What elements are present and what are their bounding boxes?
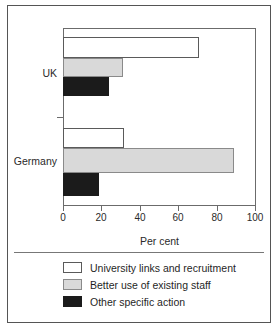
legend-label-university-links: University links and recruitment <box>90 262 236 274</box>
legend-swatch-black <box>63 296 82 307</box>
x-tick-20 <box>101 206 102 211</box>
x-tick-40 <box>140 206 141 211</box>
legend-item-other-specific-action: Other specific action <box>63 293 263 310</box>
x-tick-60 <box>178 206 179 211</box>
x-tick-label-20: 20 <box>86 212 116 224</box>
bar-germany-better-use-of-staff <box>63 148 234 173</box>
category-label-germany: Germany <box>5 155 57 167</box>
bar-uk-other-specific-action <box>63 77 109 96</box>
chart-figure: 0 20 40 60 80 100 UK Germany Per cent Un… <box>0 0 279 330</box>
x-tick-label-100: 100 <box>240 212 270 224</box>
bar-uk-better-use-of-staff <box>63 58 123 77</box>
y-axis-group-tick <box>57 117 63 118</box>
x-tick-label-60: 60 <box>163 212 193 224</box>
legend-item-university-links: University links and recruitment <box>63 259 263 276</box>
legend-swatch-gray <box>63 279 82 290</box>
plot-top-border <box>63 28 256 29</box>
x-tick-label-40: 40 <box>125 212 155 224</box>
bar-uk-university-links <box>63 37 199 58</box>
bar-germany-university-links <box>63 128 124 148</box>
x-tick-label-0: 0 <box>48 212 78 224</box>
x-tick-label-80: 80 <box>202 212 232 224</box>
legend: University links and recruitment Better … <box>63 259 263 310</box>
legend-label-other-specific-action: Other specific action <box>90 296 185 308</box>
legend-item-better-use-of-staff: Better use of existing staff <box>63 276 263 293</box>
x-tick-100 <box>255 206 256 211</box>
bar-germany-other-specific-action <box>63 173 99 196</box>
plot-right-border <box>255 28 256 206</box>
category-label-uk: UK <box>5 67 57 79</box>
x-axis-line <box>63 205 256 206</box>
x-tick-0 <box>63 206 64 211</box>
legend-label-better-use-of-staff: Better use of existing staff <box>90 279 211 291</box>
x-axis-title: Per cent <box>63 235 256 247</box>
legend-swatch-white <box>63 262 82 273</box>
x-tick-80 <box>217 206 218 211</box>
legend-divider <box>14 252 264 253</box>
